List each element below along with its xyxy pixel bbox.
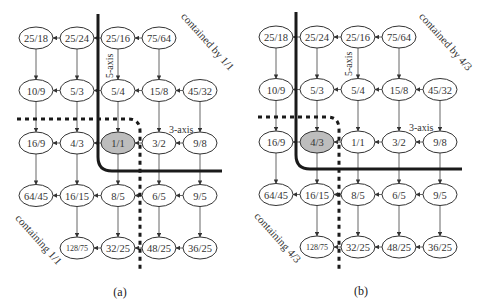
node-label: 25/18 bbox=[24, 33, 48, 44]
lattice-node: 5/3 bbox=[300, 79, 334, 101]
lattice-node: 16/15 bbox=[300, 184, 334, 206]
lattice-node: 45/32 bbox=[423, 79, 457, 101]
node-label: 25/16 bbox=[346, 32, 370, 43]
lattice-node: 25/16 bbox=[101, 27, 135, 49]
five-axis-label: 5-axis bbox=[343, 51, 354, 76]
lattice-node: 6/5 bbox=[142, 185, 176, 207]
node-label: 16/9 bbox=[267, 137, 286, 148]
node-label: 3/2 bbox=[392, 137, 405, 148]
node-label: 25/16 bbox=[106, 33, 130, 44]
node-label: 6/5 bbox=[152, 191, 165, 202]
caption-a: (a) bbox=[113, 285, 126, 299]
lattice-node: 36/25 bbox=[423, 236, 457, 258]
node-label: 4/3 bbox=[70, 138, 83, 149]
node-label: 36/25 bbox=[188, 243, 212, 254]
node-label: 75/64 bbox=[387, 32, 412, 43]
lattice-diagram: 25/1825/2425/1675/6410/95/35/415/845/321… bbox=[0, 0, 481, 307]
three-axis-label: 3-axis bbox=[169, 124, 194, 135]
node-label: 36/25 bbox=[428, 242, 452, 253]
panel-a: 25/1825/2425/1675/6410/95/35/415/845/321… bbox=[13, 10, 237, 299]
lattice-node: 16/15 bbox=[60, 185, 94, 207]
lattice-node: 3/2 bbox=[142, 132, 176, 154]
lattice-node: 36/25 bbox=[183, 237, 217, 259]
lattice-node: 9/5 bbox=[423, 184, 457, 206]
node-label: 25/18 bbox=[264, 32, 288, 43]
node-label: 48/25 bbox=[387, 242, 411, 253]
lattice-node: 128/75 bbox=[60, 237, 94, 259]
node-label: 75/64 bbox=[147, 33, 172, 44]
node-label: 5/4 bbox=[351, 85, 365, 96]
node-label: 4/3 bbox=[310, 137, 323, 148]
lattice-node: 75/64 bbox=[142, 27, 176, 49]
lattice-node: 4/3 bbox=[60, 132, 94, 154]
node-label: 9/8 bbox=[193, 138, 206, 149]
node-label: 16/9 bbox=[27, 138, 46, 149]
lattice-node: 8/5 bbox=[341, 184, 375, 206]
lattice-node: 48/25 bbox=[142, 237, 176, 259]
node-label: 16/15 bbox=[305, 190, 329, 201]
lattice-node: 128/75 bbox=[300, 236, 334, 258]
lattice-node: 10/9 bbox=[259, 79, 293, 101]
lattice-node: 25/18 bbox=[19, 27, 53, 49]
node-label: 9/8 bbox=[433, 137, 446, 148]
node-label: 64/45 bbox=[264, 190, 288, 201]
lattice-node: 16/9 bbox=[19, 132, 53, 154]
node-label: 15/8 bbox=[150, 86, 169, 97]
lattice-node: 6/5 bbox=[382, 184, 416, 206]
node-label: 128/75 bbox=[66, 244, 88, 253]
node-label: 32/25 bbox=[106, 243, 130, 254]
node-label: 10/9 bbox=[267, 85, 286, 96]
node-label: 10/9 bbox=[27, 86, 46, 97]
five-axis-label: 5-axis bbox=[104, 53, 115, 78]
lattice-node: 5/3 bbox=[60, 80, 94, 102]
node-label: 128/75 bbox=[306, 243, 328, 252]
lattice-node: 25/18 bbox=[259, 26, 293, 48]
lattice-node: 9/5 bbox=[183, 185, 217, 207]
node-label: 5/4 bbox=[111, 86, 125, 97]
node-label: 9/5 bbox=[433, 190, 446, 201]
caption-b: (b) bbox=[354, 284, 368, 298]
node-label: 8/5 bbox=[351, 190, 364, 201]
node-label: 9/5 bbox=[193, 191, 206, 202]
lattice-node: 15/8 bbox=[382, 79, 416, 101]
node-label: 8/5 bbox=[111, 191, 124, 202]
node-label: 15/8 bbox=[390, 85, 409, 96]
node-label: 45/32 bbox=[428, 85, 452, 96]
node-label: 25/24 bbox=[305, 32, 330, 43]
lattice-node: 10/9 bbox=[19, 80, 53, 102]
contained-by-label: contained by 1/1 bbox=[179, 10, 237, 73]
node-label: 45/32 bbox=[188, 86, 212, 97]
node-label: 5/3 bbox=[70, 86, 83, 97]
lattice-node: 32/25 bbox=[101, 237, 135, 259]
node-label: 16/15 bbox=[65, 191, 89, 202]
contained-by-label: contained by 4/3 bbox=[417, 10, 475, 73]
node-label: 48/25 bbox=[147, 243, 171, 254]
three-axis-label: 3-axis bbox=[409, 122, 434, 133]
containing-label: containing 4/3 bbox=[252, 210, 304, 265]
lattice-node: 64/45 bbox=[259, 184, 293, 206]
lattice-node: 1/1 bbox=[341, 131, 375, 153]
lattice-node: 5/4 bbox=[101, 80, 135, 102]
lattice-node: 9/8 bbox=[423, 131, 457, 153]
lattice-node: 4/3 bbox=[300, 131, 334, 153]
lattice-node: 3/2 bbox=[382, 131, 416, 153]
panel-b: 25/1825/2425/1675/6410/95/35/415/845/321… bbox=[252, 10, 475, 298]
lattice-node: 32/25 bbox=[341, 236, 375, 258]
node-label: 25/24 bbox=[65, 33, 90, 44]
node-label: 64/45 bbox=[24, 191, 48, 202]
lattice-node: 25/24 bbox=[60, 27, 94, 49]
node-label: 32/25 bbox=[346, 242, 370, 253]
containing-label: containing 1/1 bbox=[13, 212, 64, 267]
node-label: 3/2 bbox=[152, 138, 165, 149]
lattice-node: 48/25 bbox=[382, 236, 416, 258]
lattice-node: 16/9 bbox=[259, 131, 293, 153]
lattice-node: 45/32 bbox=[183, 80, 217, 102]
lattice-node: 5/4 bbox=[341, 79, 375, 101]
node-label: 1/1 bbox=[111, 138, 124, 149]
lattice-node: 8/5 bbox=[101, 185, 135, 207]
lattice-node: 64/45 bbox=[19, 185, 53, 207]
node-label: 5/3 bbox=[310, 85, 323, 96]
lattice-node: 1/1 bbox=[101, 132, 135, 154]
node-label: 6/5 bbox=[392, 190, 405, 201]
lattice-node: 75/64 bbox=[382, 26, 416, 48]
